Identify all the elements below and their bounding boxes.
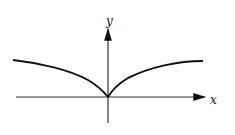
- curve-right-branch: [108, 61, 203, 97]
- y-axis-label: y: [105, 14, 113, 28]
- x-axis-label: x: [210, 93, 217, 107]
- curve-left-branch: [13, 60, 108, 97]
- graph-canvas: y x: [0, 0, 235, 135]
